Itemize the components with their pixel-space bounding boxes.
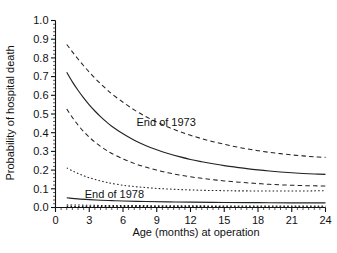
- y-tick-label: 0.3: [33, 145, 48, 157]
- x-tick-label: 18: [252, 214, 264, 226]
- x-tick-label: 12: [184, 214, 196, 226]
- y-tick-label: 1.0: [33, 14, 48, 26]
- x-tick-label: 9: [154, 214, 160, 226]
- y-tick-label: 0.1: [33, 183, 48, 195]
- x-tick-label: 3: [86, 214, 92, 226]
- curve-label: End of 1978: [85, 188, 144, 200]
- x-tick-label: 6: [120, 214, 126, 226]
- y-axis-title: Probability of hospital death: [4, 45, 16, 180]
- probability-of-hospital-death-chart: 0.00.10.20.30.40.50.60.70.80.91.0 036912…: [0, 0, 337, 253]
- x-tick-label: 21: [286, 214, 298, 226]
- x-tick-label: 24: [319, 214, 331, 226]
- y-tick-label: 0.4: [33, 127, 48, 139]
- y-tick-label: 0.8: [33, 52, 48, 64]
- y-tick-label: 0.0: [33, 201, 48, 213]
- y-tick-label: 0.9: [33, 33, 48, 45]
- y-tick-label: 0.7: [33, 70, 48, 82]
- x-tick-label: 0: [52, 214, 58, 226]
- y-tick-label: 0.2: [33, 164, 48, 176]
- x-axis-title: Age (months) at operation: [132, 226, 259, 238]
- y-tick-label: 0.5: [33, 108, 48, 120]
- y-axis-tick-labels: 0.00.10.20.30.40.50.60.70.80.91.0: [33, 14, 48, 213]
- chart-figure: 0.00.10.20.30.40.50.60.70.80.91.0 036912…: [0, 0, 337, 253]
- x-tick-label: 15: [218, 214, 230, 226]
- y-tick-label: 0.6: [33, 89, 48, 101]
- curve-label: End of 1973: [137, 116, 196, 128]
